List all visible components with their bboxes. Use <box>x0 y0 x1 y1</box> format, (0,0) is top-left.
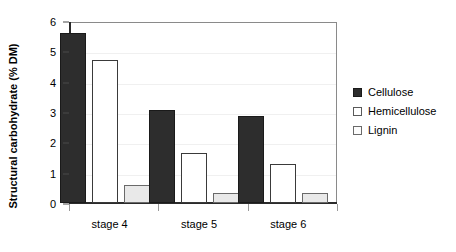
bar-lignin <box>124 185 150 203</box>
legend-item-hemicellulose: Hemicellulose <box>353 105 436 117</box>
y-tick-mark <box>63 82 69 83</box>
chart-legend: Cellulose Hemicellulose Lignin <box>353 86 436 136</box>
x-tick-mark <box>337 204 338 211</box>
plot-area <box>69 22 337 204</box>
y-tick-mark <box>63 52 69 53</box>
y-tick-mark <box>63 143 69 144</box>
y-tick-label: 4 <box>50 77 56 89</box>
bar-group <box>60 23 150 203</box>
bar-cellulose <box>238 116 264 203</box>
y-tick-label: 3 <box>50 107 56 119</box>
legend-item-cellulose: Cellulose <box>353 86 436 98</box>
y-tick-label: 0 <box>50 198 56 210</box>
x-tick-label: stage 4 <box>92 218 128 230</box>
bar-lignin <box>213 193 239 203</box>
legend-swatch-cellulose-icon <box>353 88 362 97</box>
legend-label-cellulose: Cellulose <box>368 86 413 98</box>
y-tick-mark <box>63 113 69 114</box>
legend-swatch-lignin-icon <box>353 126 362 135</box>
x-tick-mark <box>69 204 70 211</box>
legend-swatch-hemicellulose-icon <box>353 107 362 116</box>
y-axis-tick-labels: 0123456 <box>30 22 60 204</box>
bar-cellulose <box>149 110 175 203</box>
x-tick-mark <box>158 204 159 211</box>
y-axis-title: Structural carbohydrate (% DM) <box>0 0 26 252</box>
bar-group <box>238 23 328 203</box>
x-tick-mark <box>248 204 249 211</box>
bar-hemicellulose <box>181 153 207 203</box>
y-tick-mark <box>63 173 69 174</box>
y-tick-label: 2 <box>50 137 56 149</box>
x-tick-label: stage 5 <box>181 218 217 230</box>
y-tick-mark <box>63 22 69 23</box>
x-tick-label: stage 6 <box>270 218 306 230</box>
y-tick-label: 5 <box>50 46 56 58</box>
bar-hemicellulose <box>92 60 118 203</box>
bar-cellulose <box>60 33 86 203</box>
chart-figure: Structural carbohydrate (% DM) 0123456 C… <box>0 0 456 252</box>
y-tick-label: 1 <box>50 168 56 180</box>
bar-lignin <box>302 193 328 203</box>
bar-group <box>149 23 239 203</box>
bar-hemicellulose <box>270 164 296 203</box>
legend-label-hemicellulose: Hemicellulose <box>368 105 436 117</box>
y-tick-label: 6 <box>50 16 56 28</box>
legend-item-lignin: Lignin <box>353 124 436 136</box>
legend-label-lignin: Lignin <box>368 124 397 136</box>
